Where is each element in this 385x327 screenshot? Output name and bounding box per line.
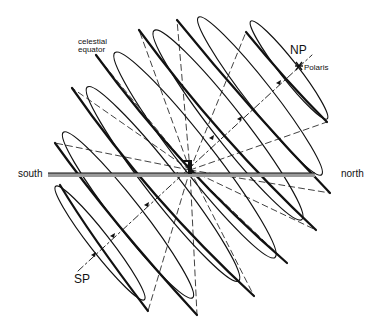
south-pole-label: SP xyxy=(74,272,90,286)
south-label: south xyxy=(18,168,42,179)
north-label: north xyxy=(341,168,364,179)
celestial-sphere-diagram xyxy=(0,0,385,327)
celestial-equator-label: celestial equator xyxy=(78,38,107,54)
celestial-equator-label-line2: equator xyxy=(78,46,107,54)
front-arcs xyxy=(55,20,330,315)
diurnal-circle-6 xyxy=(188,9,332,183)
horizon xyxy=(48,173,315,177)
diurnal-circle-1 xyxy=(48,180,152,306)
polaris-label: Polaris xyxy=(304,64,328,72)
diurnal-circle-3 xyxy=(75,77,252,291)
arrow-icon xyxy=(209,135,214,140)
sight-lines xyxy=(55,20,330,315)
arrow-icon xyxy=(91,252,96,257)
north-pole-label: NP xyxy=(290,43,307,57)
diurnal-circle-5 xyxy=(142,21,315,230)
